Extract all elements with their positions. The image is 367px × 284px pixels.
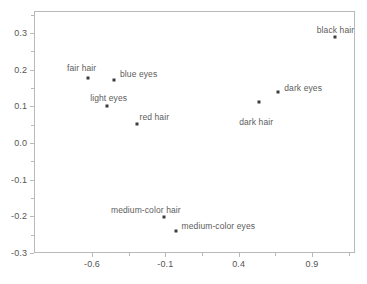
data-point-label: fair hair: [67, 63, 96, 73]
data-point-label: red hair: [139, 112, 169, 122]
data-point: [105, 104, 108, 107]
data-point: [258, 100, 261, 103]
y-tick-label: 0.1: [1, 101, 27, 111]
x-tick-label: -0.6: [84, 259, 100, 269]
x-tick-minor: [349, 253, 350, 256]
data-point-label: dark hair: [239, 117, 273, 127]
plot-data-area: fair hairblue eyeslight eyesred hairmedi…: [34, 11, 355, 253]
y-tick-label: 0.3: [1, 28, 27, 38]
x-tick-label: 0.9: [306, 259, 319, 269]
x-tick-major: [239, 253, 240, 257]
data-point-label: blue eyes: [120, 69, 157, 79]
x-tick-label: -0.1: [157, 259, 173, 269]
x-tick-major: [312, 253, 313, 257]
data-point-label: black hair: [317, 25, 354, 35]
data-point: [136, 122, 139, 125]
data-point-label: light eyes: [90, 93, 127, 103]
x-tick-major: [92, 253, 93, 257]
scatter-chart: -0.6-0.10.40.9 -0.3-0.2-0.10.00.10.20.3 …: [0, 0, 367, 284]
y-tick-label: 0.2: [1, 65, 27, 75]
y-tick-label: 0.0: [1, 138, 27, 148]
data-point: [334, 36, 337, 39]
data-point-label: dark eyes: [284, 83, 322, 93]
x-tick-minor: [275, 253, 276, 256]
y-tick-label: -0.1: [1, 175, 27, 185]
data-point-label: medium-color eyes: [182, 221, 256, 231]
data-point-label: medium-color hair: [111, 205, 181, 215]
data-point: [162, 216, 165, 219]
x-tick-minor: [202, 253, 203, 256]
data-point: [277, 91, 280, 94]
x-tick-minor: [129, 253, 130, 256]
data-point: [174, 230, 177, 233]
x-tick-label: 0.4: [232, 259, 245, 269]
y-tick-label: -0.3: [1, 248, 27, 258]
data-point: [86, 77, 89, 80]
y-tick-label: -0.2: [1, 211, 27, 221]
data-point: [113, 79, 116, 82]
x-tick-major: [165, 253, 166, 257]
y-tick-major: [30, 253, 34, 254]
